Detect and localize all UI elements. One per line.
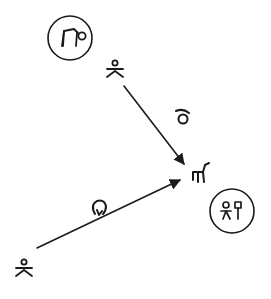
diagram-canvas [0, 0, 271, 299]
target-horse-icon [193, 163, 209, 182]
loop-hook-icon [176, 110, 189, 124]
circled-node-top [48, 16, 92, 60]
arrow-bottom-to-target [37, 180, 180, 248]
arrow-top-to-target [124, 86, 184, 164]
node-circle-bottom [210, 189, 254, 233]
hangul-glyph-icon [221, 202, 241, 219]
person-icon-bottom [16, 259, 32, 276]
circled-node-bottom [210, 189, 254, 233]
person-icon-top [107, 60, 123, 77]
bent-figure-icon [62, 29, 86, 46]
loop-down-arrow-icon [93, 201, 106, 215]
